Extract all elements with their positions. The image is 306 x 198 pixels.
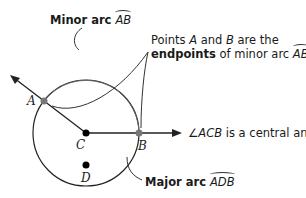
endpoints-bold: endpoints [151, 47, 216, 61]
angle-symbol: ∠ [188, 126, 198, 140]
arrow-head-A [10, 75, 20, 84]
ray-CA [14, 78, 86, 133]
endpoints-of: of minor arc [216, 47, 293, 61]
point-A [41, 98, 48, 105]
endpoints-are: are the [234, 33, 279, 47]
endpoint-B-leader [141, 52, 148, 128]
label-B: B [138, 139, 147, 153]
angle-text: is a central angle. [222, 126, 306, 140]
point-B [136, 130, 143, 137]
endpoints-text-1: Points [151, 33, 189, 47]
minor-arc [44, 80, 139, 133]
endpoints-and: and [197, 33, 226, 47]
major-arc-prefix: Major arc [145, 175, 210, 189]
angle-name: ACB [198, 126, 222, 140]
minor-arc-name: AB [115, 13, 131, 27]
major-arc-name: ADB [210, 175, 235, 189]
endpoints-note: Points A and B are the endpoints of mino… [151, 33, 306, 61]
endpoints-A: A [189, 33, 197, 47]
label-D: D [81, 171, 91, 185]
central-angle-diagram: Minor arc AB Points A and B are the endp… [0, 0, 306, 198]
minor-arc-prefix: Minor arc [50, 13, 115, 27]
circle-figure [0, 0, 306, 198]
major-arc-leader [127, 157, 142, 180]
endpoints-B: B [226, 33, 234, 47]
minor-arc-leader [74, 28, 82, 50]
major-arc-label: Major arc ADB [145, 175, 235, 189]
arrow-head-B [172, 129, 182, 137]
endpoints-arc: AB [293, 47, 306, 61]
point-D [83, 162, 90, 169]
endpoint-A-leader [52, 52, 148, 108]
label-C: C [76, 138, 85, 152]
label-A: A [27, 94, 36, 108]
central-angle-label: ∠ACB is a central angle. [188, 126, 306, 140]
minor-arc-label: Minor arc AB [50, 13, 131, 27]
point-C [83, 130, 90, 137]
